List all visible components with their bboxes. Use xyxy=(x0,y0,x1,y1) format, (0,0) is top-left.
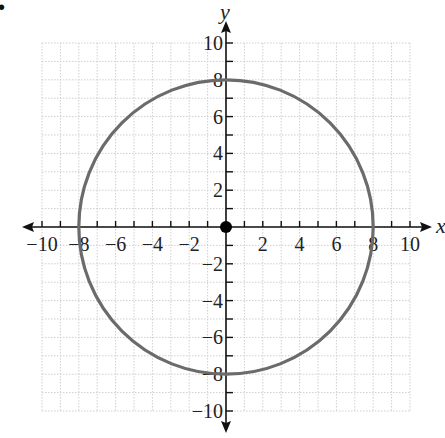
x-tick-label: 2 xyxy=(258,233,268,255)
corner-mark: • xyxy=(0,0,5,18)
y-tick-label: 10 xyxy=(203,32,223,54)
y-tick-label: −4 xyxy=(202,290,223,312)
y-tick-label: −10 xyxy=(192,400,223,422)
x-axis-label: x xyxy=(435,213,445,238)
x-tick-label: −10 xyxy=(26,233,57,255)
y-tick-label: 4 xyxy=(213,142,223,164)
x-tick-label: 10 xyxy=(400,233,420,255)
x-tick-label: −4 xyxy=(142,233,163,255)
y-tick-label: −6 xyxy=(202,326,223,348)
center-point xyxy=(220,221,232,233)
y-tick-label: 2 xyxy=(213,179,223,201)
chart: −10−8−6−4−2246810108642−2−4−6−8−10 x y • xyxy=(0,0,445,438)
y-tick-label: 6 xyxy=(213,106,223,128)
x-tick-label: −2 xyxy=(179,233,200,255)
x-tick-label: 4 xyxy=(295,233,305,255)
x-tick-label: −6 xyxy=(105,233,126,255)
x-tick-label: 6 xyxy=(331,233,341,255)
y-axis-label: y xyxy=(218,0,230,24)
y-tick-label: −2 xyxy=(202,253,223,275)
